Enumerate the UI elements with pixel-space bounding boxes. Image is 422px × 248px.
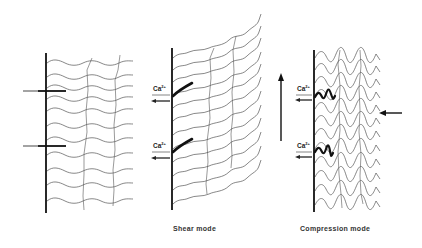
ion-charge: 2+ xyxy=(305,84,310,89)
panel-resting xyxy=(23,53,133,213)
shear-ion-release-lower xyxy=(151,152,170,160)
shear-ion-label-lower: Ca2+ xyxy=(153,143,166,150)
compression-ion-label-lower: Ca2+ xyxy=(297,143,310,150)
compression-linker-lower xyxy=(315,145,333,155)
shear-upward-arrow xyxy=(278,73,284,141)
ion-charge: 2+ xyxy=(161,141,166,146)
ion-charge: 2+ xyxy=(305,141,310,146)
compression-ion-release-lower xyxy=(295,152,312,159)
diagram-canvas xyxy=(0,0,422,248)
panel-shear xyxy=(151,14,284,210)
shear-fibers xyxy=(173,14,261,204)
shear-ion-label-upper: Ca2+ xyxy=(153,86,166,93)
compression-ion-release-upper xyxy=(295,95,312,102)
shear-mode-caption: Shear mode xyxy=(173,225,216,232)
compression-fibers xyxy=(315,47,380,209)
shear-ion-release-upper xyxy=(151,95,170,103)
shear-linker-lower xyxy=(173,139,192,152)
compression-ion-label-upper: Ca2+ xyxy=(297,86,310,93)
compression-mode-caption: Compression mode xyxy=(300,225,370,232)
resting-fibers xyxy=(47,60,133,203)
ion-charge: 2+ xyxy=(161,84,166,89)
shear-linker-upper xyxy=(173,83,192,96)
panel-compression xyxy=(295,47,402,212)
compression-inward-arrow xyxy=(379,110,402,116)
